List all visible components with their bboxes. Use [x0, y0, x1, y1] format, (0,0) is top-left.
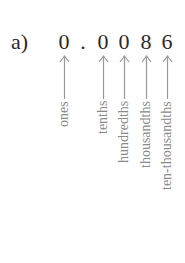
digit-ones: 0	[57, 31, 71, 53]
place-label-tenths: tenths	[96, 101, 110, 151]
arrow-up-icon	[119, 55, 130, 99]
arrow-up-icon	[59, 55, 70, 99]
arrow-up-icon	[141, 55, 152, 99]
arrow-up-icon	[98, 55, 109, 99]
digit-hundredths: 0	[117, 31, 131, 53]
digit-ten-thousandths: 6	[160, 31, 174, 53]
place-label-hundredths: hundredths	[117, 101, 131, 191]
place-label-ones: ones	[57, 101, 71, 145]
digit-tenths: 0	[96, 31, 110, 53]
place-label-ten-thousandths: ten-thousandths	[160, 101, 174, 249]
digit-thousandths: 8	[139, 31, 153, 53]
arrow-up-icon	[162, 55, 173, 99]
part-label: a)	[11, 31, 28, 53]
place-label-thousandths: thousandths	[139, 101, 153, 199]
decimal-point: .	[76, 31, 90, 53]
